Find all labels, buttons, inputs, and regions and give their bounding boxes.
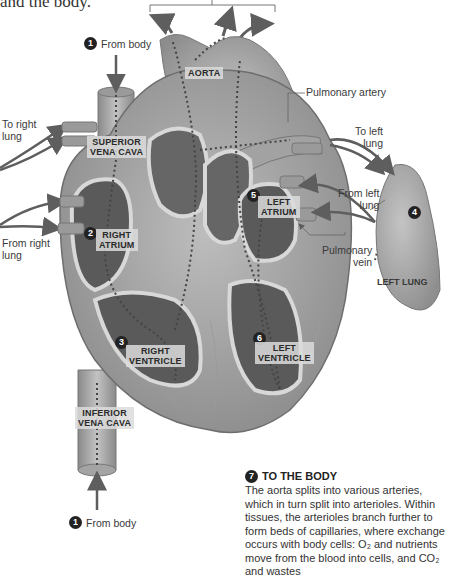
to-left-lung-label: To left lung — [355, 125, 383, 149]
superior-vena-cava-tag: SUPERIOR VENA CAVA — [87, 136, 146, 158]
right-atrium-tag: RIGHT ATRIUM — [96, 229, 138, 251]
aorta-branches-bracket — [150, 0, 275, 12]
step-1-top-badge: 1 — [84, 37, 97, 50]
from-right-lung-label: From right lung — [2, 237, 50, 261]
from-body-top-label: From body — [101, 38, 151, 50]
to-the-body-text: The aorta splits into various arteries, … — [245, 484, 450, 579]
step-4-badge: 4 — [408, 206, 421, 219]
inferior-vena-cava-tag: INFERIOR VENA CAVA — [75, 407, 134, 429]
to-right-lung-label: To right lung — [2, 118, 36, 142]
left-atrium-tag: LEFT ATRIUM — [258, 196, 300, 218]
from-left-lung-label: From left lung — [338, 187, 379, 211]
right-ventricle-tag: RIGHT VENTRICLE — [126, 345, 185, 367]
step-1-bottom-badge: 1 — [69, 516, 82, 529]
left-lung-shape — [376, 164, 440, 310]
step-7-badge: 7 — [245, 470, 258, 483]
from-body-bottom-label: From body — [86, 517, 136, 529]
left-ventricle-tag: LEFT VENTRICLE — [255, 342, 314, 364]
aorta-tag: AORTA — [185, 67, 223, 79]
pulmonary-artery-label: Pulmonary artery — [306, 86, 386, 98]
to-the-body-title: TO THE BODY — [262, 470, 337, 482]
pulmonary-vein-label: Pulmonary vein — [322, 244, 372, 268]
left-lung-label: LEFT LUNG — [377, 276, 428, 288]
